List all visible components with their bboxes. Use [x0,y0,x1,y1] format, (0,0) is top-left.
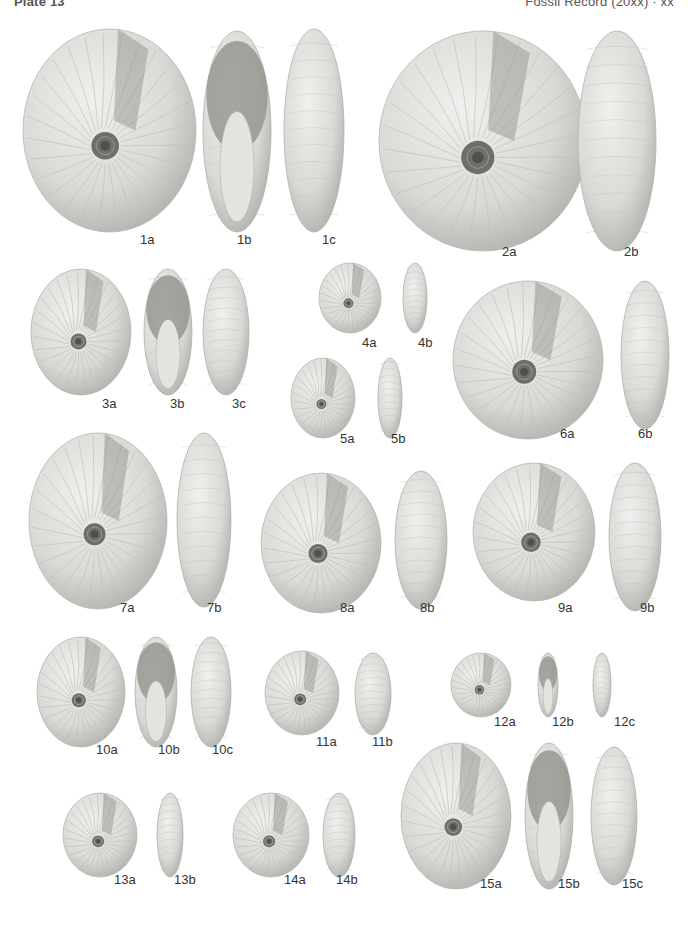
specimen-3a-lateral-view [30,268,132,396]
figure-label-6a: 6a [560,426,574,441]
figure-label-1a: 1a [140,232,154,247]
figure-label-12c: 12c [614,714,635,729]
specimen-7a-lateral-view [28,432,168,610]
figure-label-10b: 10b [158,742,180,757]
figure-label-3b: 3b [170,396,184,411]
specimen-10c-ventral-view [190,636,232,748]
specimen-11a-lateral-view [264,650,340,736]
figure-label-1b: 1b [237,232,251,247]
figure-label-3c: 3c [232,396,246,411]
specimen-11b-ventral-view [354,652,392,736]
specimen-5a-lateral-view [290,357,356,439]
specimen-8a-lateral-view [260,472,382,614]
specimen-2b-ventral-view [577,30,657,252]
specimen-10a-lateral-view [36,636,126,748]
specimen-9b-ventral-view [608,462,662,612]
specimen-15a-lateral-view [400,742,512,890]
specimen-12b-apertural-view [537,652,559,718]
figure-label-7b: 7b [207,600,221,615]
specimen-14b-ventral-view [322,792,356,878]
figure-label-4b: 4b [418,335,432,350]
specimen-6b-ventral-view [620,280,670,430]
figure-label-7a: 7a [120,600,134,615]
specimen-12c-ventral-view [592,652,612,718]
specimen-1b-apertural-view [202,30,272,233]
specimen-10b-apertural-view [134,636,178,748]
specimen-2a-lateral-view [378,30,588,252]
specimen-3b-apertural-view [143,268,193,396]
figure-label-12b: 12b [552,714,574,729]
specimen-3c-ventral-view [202,268,250,396]
figure-label-10a: 10a [96,742,118,757]
specimen-14a-lateral-view [232,792,310,878]
figure-label-9b: 9b [640,600,654,615]
specimen-15b-apertural-view [524,742,574,890]
figure-label-9a: 9a [558,600,572,615]
figure-label-5a: 5a [340,431,354,446]
specimen-4a-lateral-view [318,262,382,334]
specimen-8b-ventral-view [394,470,448,610]
specimen-9a-lateral-view [472,462,596,602]
specimen-13a-lateral-view [62,792,138,878]
figure-label-15b: 15b [558,876,580,891]
figure-label-11b: 11b [372,734,393,749]
specimen-12a-lateral-view [450,652,512,718]
figure-label-10c: 10c [212,742,233,757]
specimen-13b-ventral-view [156,792,184,878]
specimen-4b-ventral-view [402,262,428,334]
figure-label-1c: 1c [322,232,336,247]
figure-label-6b: 6b [638,426,652,441]
specimen-1a-lateral-view [22,28,197,233]
figure-label-5b: 5b [391,431,405,446]
figure-label-13b: 13b [174,872,196,887]
figure-label-4a: 4a [362,335,376,350]
specimen-6a-lateral-view [452,280,604,440]
plate-number: Plate 13 [14,0,65,9]
specimen-15c-ventral-view [590,746,638,886]
figure-label-12a: 12a [494,714,516,729]
figure-label-14b: 14b [336,872,358,887]
journal-header: Fossil Record (20xx) · xx [525,0,674,9]
specimen-1c-ventral-view [283,28,345,233]
specimen-7b-ventral-view [176,432,232,608]
figure-label-14a: 14a [284,872,306,887]
figure-label-11a: 11a [316,734,337,749]
figure-label-13a: 13a [114,872,136,887]
figure-label-3a: 3a [102,396,116,411]
figure-label-8a: 8a [340,600,354,615]
figure-label-2a: 2a [502,244,516,259]
figure-label-2b: 2b [624,244,638,259]
figure-label-15c: 15c [622,876,643,891]
specimen-5b-ventral-view [377,357,403,439]
figure-label-15a: 15a [480,876,502,891]
figure-label-8b: 8b [420,600,434,615]
